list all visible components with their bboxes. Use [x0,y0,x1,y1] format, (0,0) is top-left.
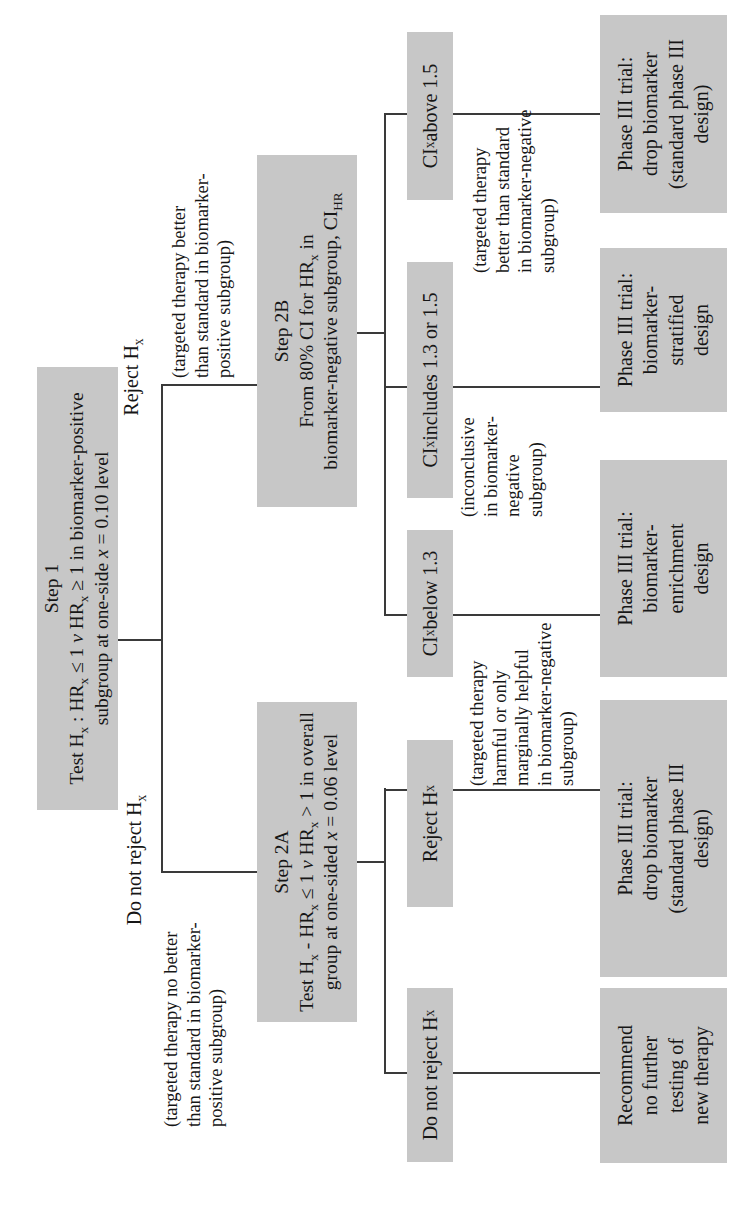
reject-hx-label: Reject Hx [120,317,143,437]
step2b-title: Step 2B [270,300,295,362]
connector-step2a-stub [357,861,386,863]
step1-box: Step 1 Test Hx : HRx ≤ 1 v HRx ≥ 1 in bi… [37,367,118,810]
note-no-better-positive: (targeted therapy no better than standar… [160,872,228,1127]
note-better-positive: (targeted therapy better than standard i… [168,133,236,378]
terminal-recommend-no-further-testing: Recommend no further testing of new ther… [600,988,727,1163]
do-not-reject-hx-label: Do not reject Hx [123,785,146,935]
terminal-drop-biomarker-standard-2a: Phase III trial: drop biomarker (standar… [600,700,727,977]
branch-box-ci-below-1-3: CIx below 1.3 [407,530,453,677]
connector-ci-below-drop [384,614,408,616]
scanned-flowchart-page: Step 1 Test Hx : HRx ≤ 1 v HRx ≥ 1 in bi… [0,0,749,1223]
step2a-line3: group at one-sided x = 0.06 level [319,734,344,990]
connector-recommend-drop [453,1072,600,1074]
connector-step2b-stub [357,332,386,334]
note-inconclusive-negative: (inconclusive in biomarker- negative sub… [457,372,547,517]
connector-drop-biomarker-2a-drop [453,789,600,791]
step2a-line2: Test Hx - HRx ≤ 1 v HRx > 1 in overall [295,712,320,1012]
step2b-box: Step 2B From 80% CI for HRx in biomarker… [257,155,357,507]
terminal-drop-biomarker-standard-2b: Phase III trial: drop biomarker (standar… [600,15,727,213]
connector-ci-includes-drop [384,386,408,388]
step2b-line2: From 80% CI for HRx in [295,234,320,428]
connector-to-step2b [161,384,258,386]
connector-step1-tbar [161,384,163,873]
flowchart-canvas: Step 1 Test Hx : HRx ≤ 1 v HRx ≥ 1 in bi… [0,0,749,1223]
step1-line3: subgroup at one-side x = 0.10 level [90,452,115,726]
branch-box-ci-includes-1-3-or-1-5: CIx includes 1.3 or 1.5 [407,262,453,498]
terminal-biomarker-stratified-design: Phase III trial: biomarker- stratified d… [600,248,727,412]
terminal-biomarker-enrichment-design: Phase III trial: biomarker- enrichment d… [600,460,727,677]
branch-box-reject-hx: Reject Hx [407,740,453,907]
connector-step2a-tbar [384,788,386,1074]
branch-box-do-not-reject-hx: Do not reject Hx [407,988,453,1162]
note-harmful-negative: (targeted therapy harmful or only margin… [466,608,579,786]
connector-step1-drop [118,639,163,641]
step2a-box: Step 2A Test Hx - HRx ≤ 1 v HRx > 1 in o… [257,702,357,1022]
connector-step2a-right-drop [384,789,408,791]
step2b-line3: biomarker-negative subgroup, CIHR [319,192,344,469]
step2a-title: Step 2A [270,830,295,893]
branch-box-ci-above-1-5: CIx above 1.5 [407,32,453,200]
step1-line2: Test Hx : HRx ≤ 1 v HRx ≥ 1 in biomarker… [65,392,90,784]
connector-step2a-left-drop [384,1072,408,1074]
note-better-negative: (targeted therapy better than standard i… [469,78,559,273]
connector-step2b-tbar [384,113,386,616]
step1-title: Step 1 [40,564,65,613]
connector-ci-above-drop [384,113,408,115]
